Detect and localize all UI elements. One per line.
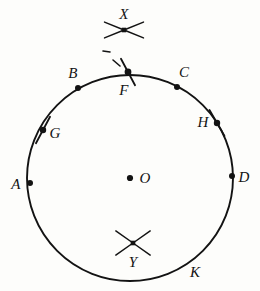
- mark-label-y: Y: [129, 255, 138, 270]
- point-dot-d: [229, 173, 235, 179]
- mark-label-x: X: [119, 7, 128, 22]
- point-dot-b: [75, 85, 81, 91]
- geometry-figure: OABCDFGHKXY: [0, 0, 260, 291]
- mark-ray-x-3: [124, 30, 143, 38]
- point-label-c: C: [179, 65, 189, 80]
- point-label-b: B: [68, 66, 77, 81]
- mark-ray-y-0: [133, 231, 150, 243]
- geometry-canvas: [0, 0, 260, 291]
- point-dot-g: [40, 127, 46, 133]
- point-dot-c: [174, 84, 180, 90]
- point-label-g: G: [49, 126, 60, 141]
- point-dot-a: [27, 180, 33, 186]
- point-dot-h: [214, 120, 220, 126]
- point-label-h: H: [197, 115, 208, 130]
- guide-dash-upper: [103, 51, 110, 52]
- point-dot-f: [125, 69, 132, 76]
- mark-ray-x-2: [105, 30, 124, 38]
- mark-ray-x-1: [105, 22, 124, 30]
- point-label-d: D: [238, 170, 249, 185]
- mark-ray-x-0: [124, 22, 143, 30]
- mark-center-x: [122, 28, 127, 33]
- center-point-dot: [127, 175, 133, 181]
- mark-ray-y-1: [116, 231, 133, 243]
- center-point-label: O: [139, 171, 150, 186]
- point-label-a: A: [11, 177, 20, 192]
- mark-center-y: [131, 241, 136, 246]
- guide-dash-lower: [113, 60, 120, 66]
- point-label-f: F: [119, 83, 128, 98]
- arc-label-k: K: [190, 265, 200, 280]
